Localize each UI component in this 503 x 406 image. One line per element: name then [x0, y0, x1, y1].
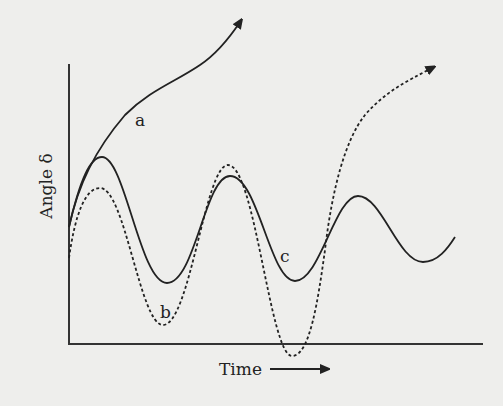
curve-label-b: b — [160, 302, 171, 322]
curve-label-c: c — [280, 246, 290, 266]
curve-b — [69, 68, 432, 356]
curve-a — [69, 22, 240, 227]
x-axis-title: Time — [219, 359, 262, 379]
swing-curve-figure: a b c Angle δ Time — [0, 0, 503, 406]
curve-label-a: a — [135, 110, 145, 130]
y-axis-title: Angle δ — [36, 153, 56, 219]
curve-c — [69, 157, 455, 283]
chart-canvas: a b c Angle δ Time — [0, 0, 503, 406]
